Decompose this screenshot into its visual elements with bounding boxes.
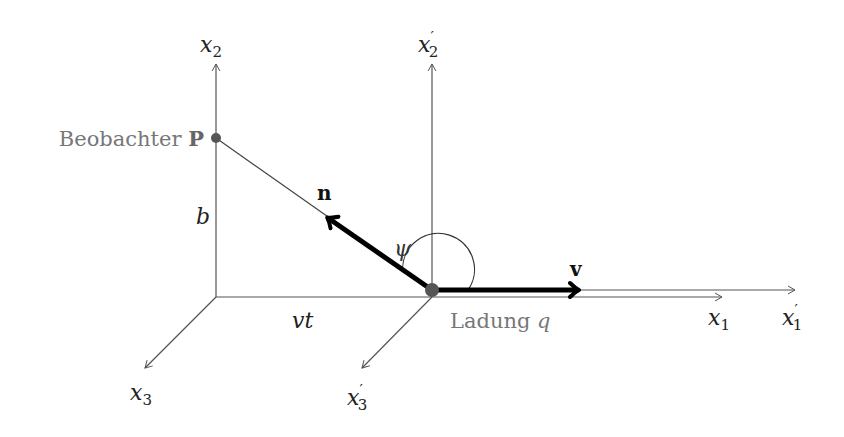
x3-label: x3 — [130, 380, 152, 409]
psi-angle-label: ψ — [394, 236, 412, 261]
x1-prime-label: x′1 — [782, 301, 802, 334]
x2-prime-label: x′2 — [418, 28, 438, 61]
n-vector-label: n — [317, 181, 332, 205]
observer-point — [211, 133, 221, 143]
b-distance-label: b — [196, 204, 210, 229]
n-vector-arrow — [328, 218, 432, 290]
x3-prime-axis — [362, 297, 432, 368]
x1-label: x1 — [708, 305, 730, 334]
vt-distance-label: vt — [292, 308, 313, 333]
psi-angle-arc — [403, 233, 475, 290]
observer-label: Beobachter P — [59, 126, 204, 151]
x3-axis — [145, 297, 216, 368]
v-vector-label: v — [569, 257, 583, 281]
charge-point — [425, 283, 439, 297]
x3-prime-label: x′3 — [347, 381, 367, 414]
charge-label: Ladung q — [450, 309, 551, 333]
diagram-canvas: x2 x′2 x1 x′1 x3 x′3 Beobachter P Ladung… — [0, 0, 844, 437]
x2-label: x2 — [200, 32, 222, 61]
